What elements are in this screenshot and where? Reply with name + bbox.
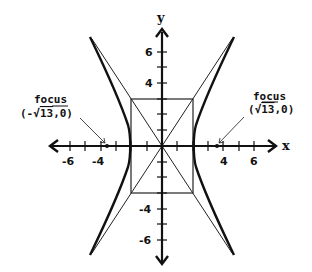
y-tick-label: 6 <box>145 46 153 59</box>
left-focus-title: focus <box>34 93 67 106</box>
right-focus-leader <box>219 117 244 143</box>
left-focus-point <box>105 144 109 148</box>
right-focus-coordinate: (√13,0) <box>248 102 294 116</box>
hyperbola-diagram: x y -6 -4 4 6 6 4 -4 -6 <box>0 0 312 272</box>
svg-text:(√13,0): (√13,0) <box>248 103 294 116</box>
right-focus-point <box>215 144 219 148</box>
y-tick-label: -4 <box>139 203 152 216</box>
x-tick-label: 4 <box>220 155 228 168</box>
x-axis-label: x <box>282 138 290 153</box>
y-tick-label: -6 <box>139 234 152 247</box>
x-tick-label: -4 <box>92 155 105 168</box>
y-tick-label: 4 <box>145 77 153 90</box>
left-focus-leader <box>80 118 105 143</box>
y-axis-label: y <box>156 10 165 25</box>
right-focus-title: focus <box>253 90 286 103</box>
x-tick-label: 6 <box>250 155 258 168</box>
x-tick-label: -6 <box>62 155 75 168</box>
left-focus-coordinate: (-√13,0) <box>20 106 73 120</box>
svg-text:(-√13,0): (-√13,0) <box>20 107 73 120</box>
